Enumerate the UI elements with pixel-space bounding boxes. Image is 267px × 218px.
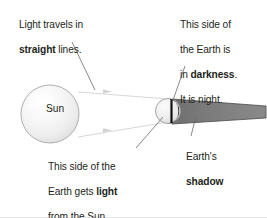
caption-darkness-line1: This side of (180, 19, 231, 30)
caption-darkness-night: This side of the Earth is in darkness. I… (180, 6, 266, 107)
light-rays (78, 90, 168, 138)
sun-body (21, 85, 79, 143)
caption-shadow-line1: Earth's (186, 151, 217, 162)
caption-leader-lines (72, 42, 196, 148)
caption-darkness-line2: the Earth is (180, 44, 230, 55)
caption-straight-line2: lines. (56, 44, 82, 55)
light-ray-lower (78, 122, 168, 137)
light-ray-arrowhead-upper (103, 90, 112, 94)
caption-light-daytime: This side of the Earth gets light from t… (48, 148, 164, 218)
caption-straight-bold: straight (19, 44, 56, 55)
earth-body (156, 99, 181, 124)
caption-straight-line1: Light travels in (19, 19, 83, 30)
caption-earths-shadow: Earth's shadow (186, 138, 258, 188)
light-ray-upper (78, 92, 168, 99)
caption-daytime-line1: This side of the (48, 161, 115, 172)
caption-darkness-bold: darkness (190, 69, 234, 80)
sun-label: Sun (33, 103, 77, 114)
caption-daytime-line3: from the Sun. (48, 211, 108, 218)
leader-line-daytime (136, 117, 163, 148)
caption-daytime-line2-prefix: Earth gets (48, 186, 96, 197)
caption-shadow-bold: shadow (186, 176, 223, 187)
sun-sphere (21, 85, 79, 143)
caption-darkness-line3-prefix: in (180, 69, 190, 80)
caption-straight-lines: Light travels in straight lines. (19, 6, 131, 56)
caption-daytime-bold: light (96, 186, 117, 197)
diagram-figure: Sun Light travels in straight lines. Thi… (0, 0, 267, 218)
caption-darkness-line3-suffix: . (234, 69, 237, 80)
caption-darkness-line4: It is night. (180, 94, 222, 105)
earth-sphere-day-side (156, 99, 181, 124)
